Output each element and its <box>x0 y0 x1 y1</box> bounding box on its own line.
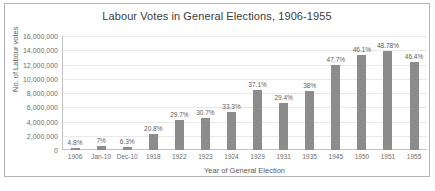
bar-data-label: 20.8% <box>144 125 162 132</box>
x-axis-tick-label: 1923 <box>192 153 218 160</box>
bar[interactable] <box>305 91 314 150</box>
y-axis-tick-label: 6,000,000 <box>27 104 58 111</box>
bar-data-label: 33.3% <box>222 103 240 110</box>
y-axis-tick-label: 2,000,000 <box>27 132 58 139</box>
bar-data-label: 6.3% <box>120 138 135 145</box>
bar[interactable] <box>71 148 80 150</box>
bar[interactable] <box>410 62 419 150</box>
y-axis-title: No. of Labour votes <box>11 27 20 92</box>
y-axis-tick-label: 8,000,000 <box>27 90 58 97</box>
y-axis-tick-label: 16,000,000 <box>23 33 58 40</box>
bar[interactable] <box>383 51 392 150</box>
x-axis-tick-label: 1931 <box>271 153 297 160</box>
x-axis-ticks: 1906Jan-10Dec-10191819221923192419291931… <box>62 153 427 160</box>
bar-data-label: 4.8% <box>68 139 83 146</box>
bar-series: 4.8%7%6.3%20.8%29.7%30.7%33.3%37.1%29.4%… <box>62 36 427 150</box>
x-axis-tick-label: 1924 <box>218 153 244 160</box>
x-axis-tick-label: 1945 <box>323 153 349 160</box>
bar-data-label: 37.1% <box>248 81 266 88</box>
bar[interactable] <box>279 103 288 150</box>
bar[interactable] <box>149 134 158 150</box>
bar-data-label: 48.78% <box>377 42 399 49</box>
y-axis-tick-label: 4,000,000 <box>27 118 58 125</box>
x-axis-tick-label: 1906 <box>62 153 88 160</box>
x-axis-title: Year of General Election <box>62 166 427 175</box>
bar[interactable] <box>331 65 340 150</box>
bar-data-label: 46.1% <box>353 46 371 53</box>
chart-title: Labour Votes in General Elections, 1906-… <box>5 10 429 22</box>
x-axis-tick-label: 1918 <box>140 153 166 160</box>
bar[interactable] <box>253 90 262 150</box>
bar-slot: 46.1% <box>349 36 375 150</box>
bar-slot: 6.3% <box>114 36 140 150</box>
x-axis-tick-label: Jan-10 <box>88 153 114 160</box>
y-axis-tick-label: 0 <box>54 147 58 154</box>
bar-slot: 46.4% <box>401 36 427 150</box>
bar-slot: 37.1% <box>245 36 271 150</box>
x-axis-tick-label: 1929 <box>245 153 271 160</box>
bar[interactable] <box>123 147 132 150</box>
y-axis-tick-label: 14,000,000 <box>23 47 58 54</box>
y-axis-tick-label: 12,000,000 <box>23 61 58 68</box>
bar-slot: 7% <box>88 36 114 150</box>
x-axis-tick-label: Dec-10 <box>114 153 140 160</box>
bar-data-label: 7% <box>96 137 105 144</box>
bar[interactable] <box>97 146 106 150</box>
bar[interactable] <box>201 118 210 150</box>
bar-slot: 47.7% <box>323 36 349 150</box>
bar-data-label: 30.7% <box>196 109 214 116</box>
bar-slot: 29.4% <box>271 36 297 150</box>
bar[interactable] <box>227 112 236 150</box>
bar-slot: 48.78% <box>375 36 401 150</box>
bar-slot: 4.8% <box>62 36 88 150</box>
x-axis-tick-label: 1950 <box>349 153 375 160</box>
x-axis-tick-label: 1955 <box>401 153 427 160</box>
bar-data-label: 29.7% <box>170 111 188 118</box>
x-axis-tick-label: 1951 <box>375 153 401 160</box>
bar-slot: 20.8% <box>140 36 166 150</box>
chart-container: Labour Votes in General Elections, 1906-… <box>4 3 430 177</box>
bar-data-label: 38% <box>303 82 316 89</box>
bar-data-label: 29.4% <box>274 94 292 101</box>
bar[interactable] <box>175 120 184 150</box>
bar-data-label: 47.7% <box>327 56 345 63</box>
y-axis-tick-label: 10,000,000 <box>23 75 58 82</box>
bar[interactable] <box>357 55 366 150</box>
bar-data-label: 46.4% <box>405 53 423 60</box>
bar-slot: 38% <box>297 36 323 150</box>
bar-slot: 30.7% <box>192 36 218 150</box>
x-axis-tick-label: 1922 <box>166 153 192 160</box>
x-axis-tick-label: 1935 <box>297 153 323 160</box>
bar-slot: 29.7% <box>166 36 192 150</box>
plot-area: 16,000,00014,000,00012,000,00010,000,000… <box>62 36 427 150</box>
bar-slot: 33.3% <box>218 36 244 150</box>
